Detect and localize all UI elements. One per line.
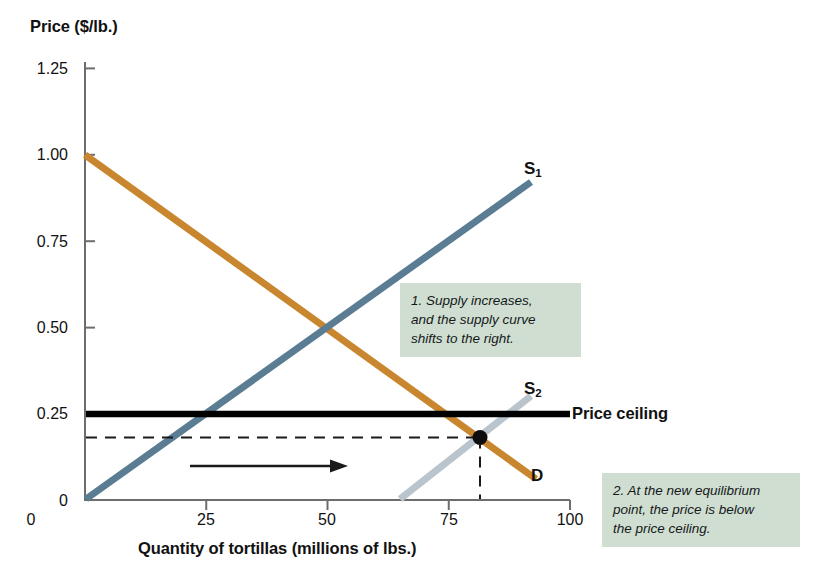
y-tick-label-0: 0 bbox=[18, 493, 68, 509]
y-tick-label-100: 1.00 bbox=[18, 147, 68, 163]
supply-curve-1-label-sub: 1 bbox=[535, 167, 541, 179]
equilibrium-point-dot bbox=[473, 430, 488, 445]
y-tick-label-075: 0.75 bbox=[18, 234, 68, 250]
y-axis-title: Price ($/lb.) bbox=[30, 18, 118, 35]
supply-curve-1-label: S1 bbox=[524, 160, 542, 177]
x-tick-label-100: 100 bbox=[545, 512, 595, 528]
x-axis-title: Quantity of tortillas (millions of lbs.) bbox=[138, 540, 416, 557]
supply-curve-2-label-base: S bbox=[524, 379, 535, 398]
y-tick-label-025: 0.25 bbox=[18, 406, 68, 422]
y-tick-label-050: 0.50 bbox=[18, 320, 68, 336]
annotation-note-1-line-1: 1. Supply increases, bbox=[411, 291, 570, 310]
annotation-note-2: 2. At the new equilibrium point, the pri… bbox=[602, 473, 800, 547]
economics-chart-figure: Price ($/lb.) Quantity of tortillas (mil… bbox=[0, 0, 816, 573]
x-tick-label-50: 50 bbox=[302, 512, 352, 528]
supply-curve-1-label-base: S bbox=[524, 159, 535, 178]
supply-curve-2-label-sub: 2 bbox=[535, 387, 541, 399]
annotation-note-2-line-3: the price ceiling. bbox=[613, 519, 789, 538]
x-tick-label-0: 0 bbox=[6, 512, 56, 528]
annotation-note-1-line-2: and the supply curve bbox=[411, 310, 570, 329]
annotation-note-2-line-1: 2. At the new equilibrium bbox=[613, 481, 789, 500]
annotation-note-1-line-3: shifts to the right. bbox=[411, 329, 570, 348]
demand-curve-label: D bbox=[531, 467, 543, 484]
price-ceiling-label: Price ceiling bbox=[572, 405, 668, 422]
x-tick-label-75: 75 bbox=[424, 512, 474, 528]
annotation-note-1: 1. Supply increases, and the supply curv… bbox=[400, 283, 581, 357]
supply-curve-2-label: S2 bbox=[524, 380, 542, 397]
x-tick-label-25: 25 bbox=[181, 512, 231, 528]
supply-shift-arrow-icon bbox=[190, 460, 348, 473]
y-tick-label-125: 1.25 bbox=[18, 61, 68, 77]
annotation-note-2-line-2: point, the price is below bbox=[613, 500, 789, 519]
